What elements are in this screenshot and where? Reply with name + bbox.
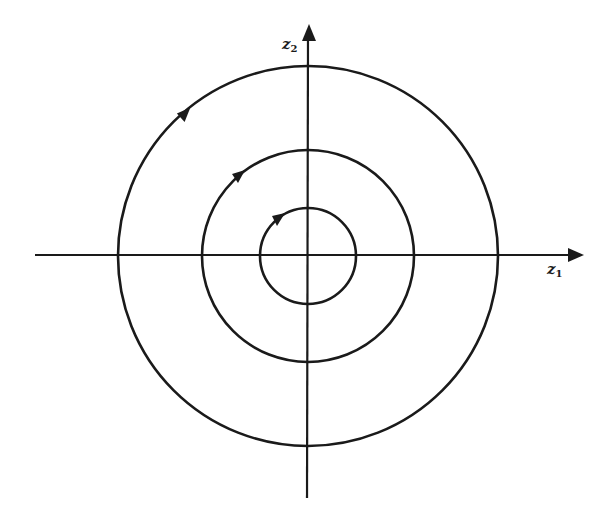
- z1-label-sub: 1: [556, 268, 563, 279]
- z2-axis-line: [307, 38, 308, 498]
- orbit-outer-direction-arrow-icon: [176, 107, 191, 122]
- phase-portrait-diagram: [0, 0, 606, 509]
- z1-axis-arrowhead-icon: [568, 248, 584, 262]
- z2-label-base: z: [282, 35, 291, 53]
- z1-label-base: z: [547, 260, 556, 278]
- z2-axis-label: z2: [282, 37, 298, 54]
- z2-axis-arrowhead-icon: [302, 24, 316, 41]
- orbit-inner-direction-arrow-icon: [272, 213, 285, 226]
- z2-label-sub: 2: [291, 43, 298, 54]
- z1-axis-label: z1: [547, 262, 563, 279]
